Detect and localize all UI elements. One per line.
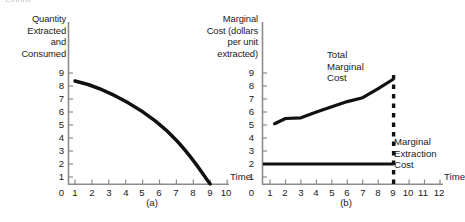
panel-b-total-marginal-cost-curve <box>275 80 393 124</box>
panel-b-caption: (b) <box>326 198 366 208</box>
panel-a-quantity-curve <box>75 81 210 184</box>
panel-b-plot <box>196 0 462 222</box>
panel-a-caption: (a) <box>132 198 172 208</box>
chart-panel-b: Marginal Cost (dollars per unit extracte… <box>196 0 462 222</box>
panel-b-x-ticks <box>270 180 440 185</box>
